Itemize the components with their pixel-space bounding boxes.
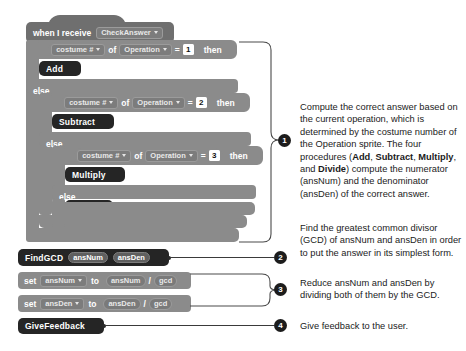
- block-script-figure: when I receive CheckAnswer if costume # …: [0, 0, 466, 351]
- to-label-num: to: [91, 276, 99, 286]
- message-name: CheckAnswer: [101, 28, 151, 37]
- divide-operator-den[interactable]: ansDen / gcd: [100, 296, 175, 311]
- variable-name-ansden: ansDen: [45, 299, 72, 308]
- findgcd-arg-ansden[interactable]: ansDen: [113, 252, 150, 263]
- caret-down-icon: [122, 154, 126, 157]
- callout-marker-4: 4: [274, 319, 287, 332]
- sensing-property-2: costume #: [69, 98, 106, 107]
- callout-number-3: 3: [278, 285, 282, 294]
- if-block-3-foot: [52, 202, 255, 215]
- if-block-2-else-bar[interactable]: [39, 132, 251, 146]
- set-ansnum-block[interactable]: set ansNum to ansNum / gcd: [18, 272, 191, 289]
- costume-number-input-1[interactable]: 1: [183, 44, 194, 55]
- if-block-1-header[interactable]: if costume # of Operation = 1 then: [26, 40, 237, 59]
- set-label-num: set: [24, 276, 36, 286]
- caret-down-icon: [75, 302, 79, 305]
- if-block-3-header[interactable]: if costume # of Operation = 3 then: [52, 146, 263, 165]
- operand-gcd-den[interactable]: gcd: [149, 298, 172, 310]
- callout-note-1: Compute the correct answer based on the …: [300, 101, 466, 200]
- equals-operator-3[interactable]: costume # of Operation = 3: [74, 148, 223, 163]
- if-block-2-left-arm: [39, 93, 52, 215]
- operand-ansden[interactable]: ansDen: [103, 298, 140, 310]
- variable-dropdown-ansnum[interactable]: ansNum: [40, 275, 87, 287]
- sensing-target-2[interactable]: Operation: [132, 97, 184, 109]
- callout-number-1: 1: [282, 136, 286, 145]
- if-block-2-header[interactable]: if costume # of Operation = 2 then: [39, 93, 250, 112]
- if-block-1-left-arm: [26, 40, 39, 242]
- set-label-den: set: [24, 299, 36, 309]
- of-label-3: of: [134, 151, 142, 161]
- sensing-of-block-2[interactable]: costume #: [64, 97, 118, 109]
- equals-sign-1: =: [175, 45, 180, 55]
- sensing-target-name-3: Operation: [150, 151, 185, 160]
- to-label-den: to: [88, 299, 96, 309]
- equals-operator-1[interactable]: costume # of Operation = 1: [48, 42, 197, 57]
- variable-dropdown-ansden[interactable]: ansDen: [40, 298, 84, 310]
- if-block-1-foot: [26, 228, 239, 242]
- caret-down-icon: [154, 31, 158, 34]
- of-label-2: of: [121, 98, 129, 108]
- message-dropdown[interactable]: CheckAnswer: [96, 27, 163, 39]
- caret-down-icon: [96, 48, 100, 51]
- costume-number-input-2[interactable]: 2: [196, 97, 207, 108]
- variable-name-ansnum: ansNum: [45, 276, 75, 285]
- if-block-1-else-bar[interactable]: [26, 79, 238, 93]
- callout-1-brace: [237, 40, 281, 245]
- divide-sign-den: /: [144, 299, 146, 309]
- findgcd-label: FindGCD: [25, 253, 63, 263]
- callout-2-leader-line: [170, 257, 274, 258]
- sensing-of-block-1[interactable]: costume #: [51, 44, 105, 56]
- divide-sign-num: /: [149, 276, 151, 286]
- operand-gcd-num[interactable]: gcd: [154, 275, 177, 287]
- callout-note-3: Reduce ansNum and ansDen by dividing bot…: [300, 277, 466, 302]
- if-block-2-foot: [39, 215, 247, 228]
- caret-down-icon: [78, 279, 82, 282]
- add-label: Add: [46, 64, 63, 74]
- sensing-target-1[interactable]: Operation: [119, 44, 171, 56]
- divide-operator-num[interactable]: ansNum / gcd: [103, 273, 180, 288]
- equals-operator-2[interactable]: costume # of Operation = 2: [61, 95, 210, 110]
- then-label-1: then: [204, 45, 222, 55]
- equals-sign-3: =: [201, 151, 206, 161]
- operand-ansnum[interactable]: ansNum: [106, 275, 146, 287]
- callout-3-brace: [190, 273, 278, 307]
- givefeedback-procedure-call[interactable]: GiveFeedback: [18, 318, 104, 334]
- caret-down-icon: [163, 48, 167, 51]
- sensing-target-3[interactable]: Operation: [145, 150, 197, 162]
- callout-marker-3: 3: [274, 283, 287, 296]
- sensing-property-1: costume #: [56, 45, 93, 54]
- callout-marker-1: 1: [278, 134, 291, 147]
- subtract-label: Subtract: [59, 117, 95, 127]
- sensing-target-name-1: Operation: [124, 45, 159, 54]
- caret-down-icon: [109, 101, 113, 104]
- callout-note-4: Give feedback to the user.: [300, 320, 466, 332]
- subtract-procedure-call[interactable]: Subtract: [52, 114, 114, 129]
- multiply-label: Multiply: [72, 170, 106, 180]
- callout-note-2: Find the greatest common divisor (GCD) o…: [300, 222, 466, 259]
- set-ansden-block[interactable]: set ansDen to ansDen / gcd: [18, 295, 191, 312]
- if-block-3-else-bar[interactable]: [52, 185, 256, 199]
- of-label-1: of: [108, 45, 116, 55]
- sensing-target-name-2: Operation: [137, 98, 172, 107]
- sensing-property-3: costume #: [82, 151, 119, 160]
- callout-marker-2: 2: [274, 251, 287, 264]
- givefeedback-label: GiveFeedback: [25, 321, 85, 331]
- sensing-of-block-3[interactable]: costume #: [77, 150, 131, 162]
- callout-number-2: 2: [278, 253, 282, 262]
- findgcd-arg-ansnum[interactable]: ansNum: [68, 252, 108, 263]
- then-label-2: then: [217, 98, 235, 108]
- add-procedure-call[interactable]: Add: [39, 61, 81, 76]
- callout-number-4: 4: [278, 321, 282, 330]
- callout-4-leader-line: [105, 325, 274, 326]
- when-i-receive-label: when I receive: [33, 28, 91, 38]
- costume-number-input-3[interactable]: 3: [209, 150, 220, 161]
- findgcd-procedure-call[interactable]: FindGCD ansNum ansDen: [18, 249, 169, 266]
- caret-down-icon: [189, 154, 193, 157]
- multiply-procedure-call[interactable]: Multiply: [65, 167, 125, 182]
- equals-sign-2: =: [188, 98, 193, 108]
- caret-down-icon: [176, 101, 180, 104]
